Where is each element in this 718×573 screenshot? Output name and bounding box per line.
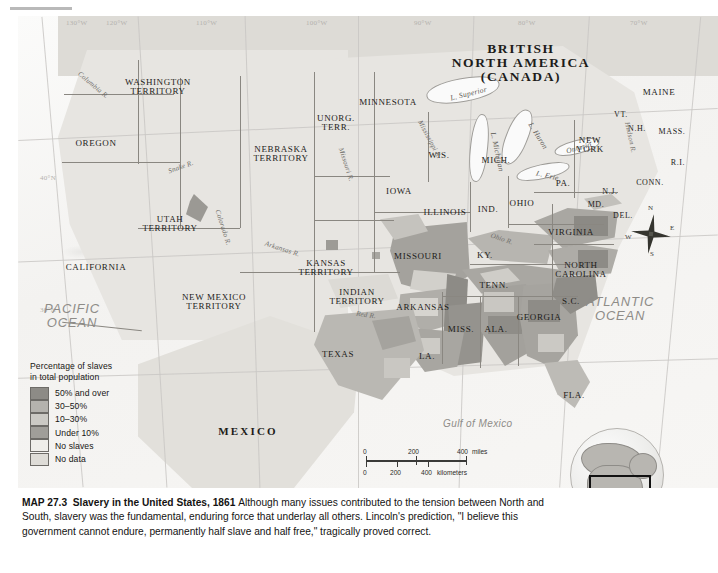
map-region-label: UTAHTERRITORY <box>142 215 197 234</box>
map-region-label-line: BRITISH <box>452 42 590 56</box>
globe-locator-box <box>589 475 651 488</box>
border-line <box>314 220 394 221</box>
map-region-label-line: MAINE <box>643 88 676 97</box>
page-header-rule <box>10 7 72 10</box>
legend-rows: 50% and over30–50%10–30%Under 10%No slav… <box>30 386 150 465</box>
map-region-label-line: TERRITORY <box>329 297 384 306</box>
map-region-label-line: CONN. <box>636 179 664 187</box>
caption-map-number: MAP 27.3 <box>22 497 67 508</box>
map-region-label: UNORG.TERR. <box>317 114 355 133</box>
map-region-label: R.I. <box>671 159 685 167</box>
map-region-label-line: TEXAS <box>322 350 354 359</box>
map-region-label: LA. <box>419 352 435 361</box>
map-region-label: OREGON <box>75 139 116 148</box>
map-region-label-line: TERRITORY <box>125 87 191 96</box>
map-region-label: CALIFORNIA <box>66 263 127 272</box>
density-patch <box>484 292 514 312</box>
map-region-label: NEBRASKATERRITORY <box>253 145 308 164</box>
map-region-label-line: MEXICO <box>218 426 278 438</box>
map-region-label: MEXICO <box>218 426 278 438</box>
scale-label-km-0: 0 <box>363 469 367 476</box>
map-region-label-line: R.I. <box>671 159 685 167</box>
border-line <box>552 204 553 300</box>
map-region-label-line: MASS. <box>659 128 686 136</box>
map-region-label: OHIO <box>510 199 535 208</box>
map-region-label-line: ALA. <box>484 325 507 334</box>
map-legend: Percentage of slaves in total population… <box>30 361 150 466</box>
water-label-line: OCEAN <box>44 316 100 330</box>
legend-label: 10–30% <box>55 414 87 424</box>
legend-label: No data <box>55 454 86 464</box>
water-label-line: OCEAN <box>586 309 654 323</box>
legend-label: 50% and over <box>55 388 109 398</box>
water-label: Gulf of Mexico <box>443 419 513 430</box>
legend-swatch <box>30 387 49 400</box>
map-region-label-line: N.J. <box>602 188 617 196</box>
legend-swatch <box>30 439 49 452</box>
legend-title: Percentage of slaves in total population <box>30 361 150 382</box>
border-line <box>240 76 241 228</box>
longitude-label: 130°W <box>66 19 87 27</box>
map-region-label: INDIANTERRITORY <box>329 288 384 307</box>
map-region-label-line: CALIFORNIA <box>66 263 127 272</box>
map-region-label: IND. <box>478 205 499 214</box>
map-region-label-line: NORTH AMERICA <box>452 56 590 70</box>
map-region-label-line: OREGON <box>75 139 116 148</box>
scale-tick <box>397 460 398 467</box>
legend-title-line1: Percentage of slaves <box>30 361 150 372</box>
legend-label: 30–50% <box>55 401 87 411</box>
map-region-label: GEORGIA <box>517 313 562 322</box>
map-region-label-line: KY. <box>477 251 493 260</box>
legend-label: Under 10% <box>55 428 99 438</box>
map-region-label: TEXAS <box>322 350 354 359</box>
map-region-label-line: TERRITORY <box>182 302 246 311</box>
compass-rose: N E S W <box>623 206 679 262</box>
scale-label-miles-400: 400 <box>457 448 468 455</box>
longitude-label: 120°W <box>106 19 127 27</box>
map-region-label-line: ARKANSAS <box>396 303 449 312</box>
legend-swatch <box>30 413 49 426</box>
border-line <box>314 72 315 272</box>
density-patch <box>384 358 410 378</box>
legend-item: 10–30% <box>30 413 150 426</box>
legend-swatch <box>30 453 49 466</box>
water-label-line: ATLANTIC <box>586 295 654 309</box>
border-line <box>442 296 578 297</box>
scale-tick <box>366 460 367 467</box>
map-region-label: N.J. <box>602 188 617 196</box>
map-region-label: FLA. <box>563 391 585 400</box>
map-region-label: ILLINOIS <box>424 208 467 217</box>
map-region-label-line: ILLINOIS <box>424 208 467 217</box>
map-region-label-line: S.C. <box>562 297 580 306</box>
scale-label-miles-unit: miles <box>472 448 487 455</box>
scale-tick <box>428 460 429 467</box>
density-patch <box>538 334 564 352</box>
map-region-label-line: IND. <box>478 205 499 214</box>
map-region-label-line: VIRGINIA <box>548 228 594 237</box>
border-line <box>138 60 139 164</box>
map-region-label: IOWA <box>386 187 412 196</box>
compass-label-n: N <box>648 204 653 212</box>
map-region-label: ARKANSAS <box>396 303 449 312</box>
figure-caption: MAP 27.3 Slavery in the United States, 1… <box>22 496 562 539</box>
compass-label-e: E <box>670 224 674 232</box>
water-label: PACIFICOCEAN <box>44 302 100 329</box>
border-line <box>574 120 575 198</box>
map-region-label-line: FLA. <box>563 391 585 400</box>
map-region-label: VT. <box>614 111 628 119</box>
border-line <box>180 78 181 228</box>
map-region-label-line: MISSOURI <box>394 252 442 261</box>
legend-item: Under 10% <box>30 426 150 439</box>
longitude-label: 110°W <box>196 19 217 27</box>
legend-label: No slaves <box>55 441 94 451</box>
scale-label-miles-0: 0 <box>363 448 367 455</box>
scale-label-km-400: 400 <box>421 469 432 476</box>
graticule-line <box>358 16 359 488</box>
page-root: 130°W120°W110°W100°W90°W80°W70°W40°N30°N <box>0 0 718 573</box>
compass-label-s: S <box>650 250 654 258</box>
map-region-label: ALA. <box>484 325 507 334</box>
border-line <box>470 182 471 232</box>
map-region-label-line: TERR. <box>317 123 355 132</box>
map-region-label: NEW MEXICOTERRITORY <box>182 293 246 312</box>
map-region-label: MAINE <box>643 88 676 97</box>
